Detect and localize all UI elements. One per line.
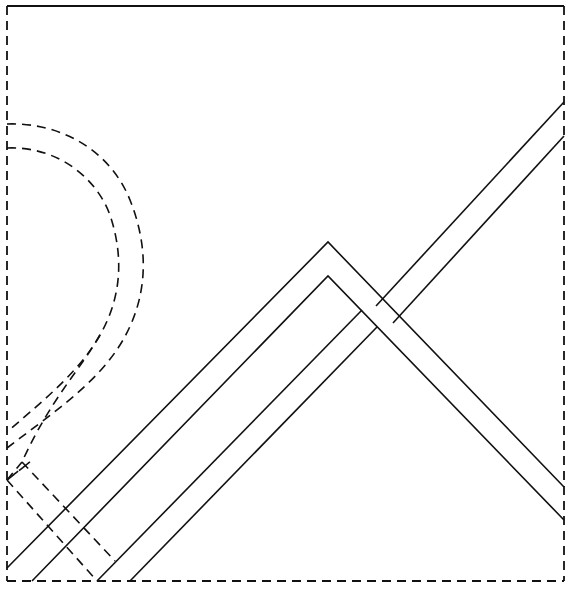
straight-strip-upper-edge-upper [376,102,564,306]
bent-strip [7,242,564,581]
bent-strip-outer-edge [7,242,564,568]
curved-strip-inner-edge [7,148,119,480]
diagram-canvas [0,0,568,590]
frame [7,6,564,581]
straight-strip-lower-edge-upper [393,136,564,323]
straight-strip [97,102,564,581]
curved-strip-outer-edge [7,124,143,448]
curved-strip-hidden [7,124,143,581]
strip-diagram [0,0,568,590]
straight-strip-lower-edge-lower [130,327,377,581]
curved-strip-lower-inner [22,462,115,561]
bent-strip-inner-edge [32,276,564,581]
straight-strip-upper-edge-lower [97,310,362,581]
curved-strip-inner-tail [22,335,100,462]
